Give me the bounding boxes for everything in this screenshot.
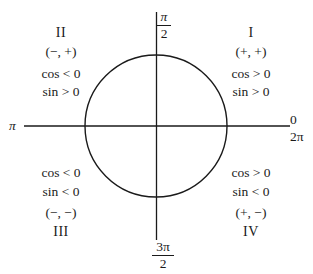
three-pi-over-2-numerator: 3π xyxy=(146,240,180,255)
quadrant-I-roman: I xyxy=(196,26,306,40)
axis-label-zero: 0 xyxy=(290,112,304,129)
quadrant-I-block: I (+, +) cos > 0 sin > 0 xyxy=(196,26,306,99)
quadrant-IV-cos: cos > 0 xyxy=(196,166,306,180)
pi-over-2-denominator: 2 xyxy=(152,26,176,41)
quadrant-I-signs: (+, +) xyxy=(196,45,306,59)
quadrant-II-signs: (−, +) xyxy=(6,45,116,59)
quadrant-III-sin: sin < 0 xyxy=(6,185,116,199)
quadrant-IV-signs: (+, −) xyxy=(196,206,306,220)
pi-over-2-numerator: π xyxy=(152,10,176,25)
quadrant-II-sin: sin > 0 xyxy=(6,85,116,99)
quadrant-II-block: II (−, +) cos < 0 sin > 0 xyxy=(6,26,116,99)
quadrant-I-sin: sin > 0 xyxy=(196,85,306,99)
quadrant-III-signs: (−, −) xyxy=(6,206,116,220)
unit-circle-figure: II (−, +) cos < 0 sin > 0 I (+, +) cos >… xyxy=(0,0,313,274)
quadrant-III-block: cos < 0 sin < 0 (−, −) III xyxy=(6,166,116,239)
quadrant-II-cos: cos < 0 xyxy=(6,67,116,81)
axis-label-zero-two-pi: 0 2π xyxy=(290,112,304,146)
axis-label-two-pi: 2π xyxy=(290,129,304,146)
quadrant-IV-roman: IV xyxy=(196,225,306,239)
quadrant-III-roman: III xyxy=(6,225,116,239)
quadrant-IV-sin: sin < 0 xyxy=(196,185,306,199)
quadrant-III-cos: cos < 0 xyxy=(6,166,116,180)
three-pi-over-2-denominator: 2 xyxy=(146,256,180,271)
quadrant-II-roman: II xyxy=(6,26,116,40)
quadrant-IV-block: cos > 0 sin < 0 (+, −) IV xyxy=(196,166,306,239)
axis-label-pi: π xyxy=(9,119,16,133)
axis-label-pi-over-2: π 2 xyxy=(152,10,176,41)
quadrant-I-cos: cos > 0 xyxy=(196,67,306,81)
axis-label-3pi-over-2: 3π 2 xyxy=(146,240,180,271)
